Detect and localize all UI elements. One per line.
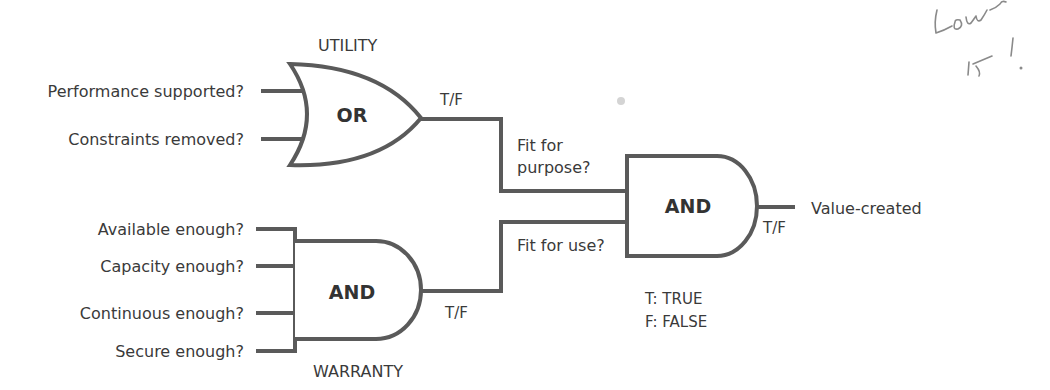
value-creation-logic-diagram: UTILITY Performance supported? Constrain… (0, 0, 1050, 390)
final-output-label: T/F (762, 219, 786, 237)
legend-true: T: TRUE (644, 290, 702, 308)
final-and-gate-group: AND T/F Value-created (627, 156, 922, 256)
utility-title: UTILITY (318, 36, 378, 55)
value-created-label: Value-created (811, 199, 922, 218)
input-capacity-enough: Capacity enough? (100, 257, 244, 276)
input-constraints-removed: Constraints removed? (68, 130, 244, 149)
fit-for-purpose-line1: Fit for (517, 136, 563, 155)
fit-for-use-label: Fit for use? (517, 236, 605, 255)
input-secure-enough: Secure enough? (115, 342, 244, 361)
handwritten-note-icon (935, 1, 1022, 76)
input-performance-supported: Performance supported? (48, 82, 244, 101)
smudge-mark (617, 97, 625, 105)
wire-fit-for-use (420, 222, 629, 291)
legend-false: F: FALSE (645, 313, 707, 331)
fit-for-purpose-line2: purpose? (517, 158, 591, 177)
warranty-output-label: T/F (444, 304, 468, 322)
warranty-and-gate-label: AND (329, 281, 375, 303)
wire-fit-for-purpose (421, 119, 629, 191)
warranty-title: WARRANTY (313, 362, 403, 381)
input-continuous-enough: Continuous enough? (80, 304, 244, 323)
input-available-enough: Available enough? (98, 220, 244, 239)
or-gate-label: OR (337, 104, 368, 126)
warranty-and-gate-group: Available enough? Capacity enough? Conti… (80, 220, 468, 381)
utility-or-gate-group: UTILITY Performance supported? Constrain… (48, 36, 463, 165)
utility-output-label: T/F (439, 91, 463, 109)
final-and-gate-label: AND (665, 195, 711, 217)
